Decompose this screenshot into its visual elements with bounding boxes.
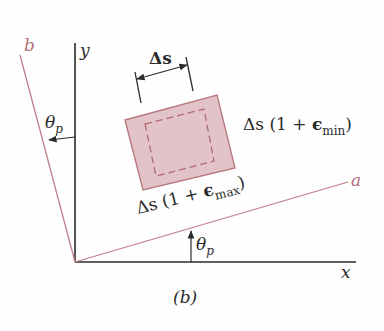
x-axis-label: x — [341, 262, 351, 282]
strained-element — [125, 95, 235, 190]
side-min-label: Δs (1 + ϵmin) — [243, 114, 352, 138]
dimension-extension-left — [135, 72, 141, 103]
dimension-extension-right — [186, 57, 193, 91]
delta-s-label: Δs — [149, 48, 172, 68]
theta-label-top: θp — [45, 112, 63, 136]
theta-arrow-top — [49, 137, 75, 140]
y-axis-label: y — [79, 40, 90, 60]
theta-label-bottom: θp — [196, 234, 214, 258]
b-axis — [20, 55, 75, 262]
b-axis-label: b — [24, 35, 35, 55]
a-axis-label: a — [351, 170, 361, 190]
diagram-svg: x y a b θp θp Δs Δs (1 + ϵmin) Δs (1 + ϵ… — [0, 0, 384, 331]
figure-caption: (b) — [173, 287, 197, 307]
strain-element-diagram: x y a b θp θp Δs Δs (1 + ϵmin) Δs (1 + ϵ… — [0, 0, 384, 331]
